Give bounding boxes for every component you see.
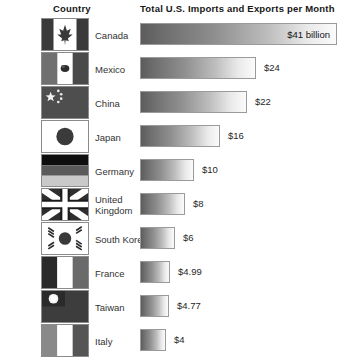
value-label: $22 [255,96,271,108]
chart-row: UnitedKingdom$8 [0,188,348,222]
flag-taiwan-icon [41,290,89,323]
column-header-country: Country [53,3,91,14]
value-label: $4.99 [178,266,202,278]
value-bar [140,329,166,351]
chart-row: France$4.99 [0,256,348,290]
value-bar [140,193,185,215]
value-label: $4.77 [177,300,201,312]
value-label: $16 [228,130,244,142]
country-label: Japan [95,132,121,143]
chart-row: Italy$4 [0,324,348,358]
chart-row: Japan$16 [0,120,348,154]
country-label: Mexico [95,64,125,75]
chart-row: South Korea$6 [0,222,348,256]
flag-france-icon [41,256,89,289]
value-bar [140,159,194,181]
column-header-value: Total U.S. Imports and Exports per Month [140,3,335,14]
flag-united-kingdom-icon [41,188,89,221]
flag-mexico-icon [41,52,89,85]
country-label: France [95,268,125,279]
flag-south-korea-icon [41,222,89,255]
chart-row: Taiwan$4.77 [0,290,348,324]
value-label: $41 billion [287,29,330,41]
value-bar [140,125,220,147]
country-label: Italy [95,336,112,347]
value-label: $6 [183,232,194,244]
flag-germany-icon [41,154,89,187]
value-label: $24 [264,62,280,74]
chart-row: Canada$41 billion [0,18,348,52]
value-bar: $41 billion [140,23,337,45]
value-label: $8 [193,198,204,210]
value-label: $4 [174,334,185,346]
chart-row: Germany$10 [0,154,348,188]
value-bar [140,91,247,113]
chart-row: Mexico$24 [0,52,348,86]
flag-italy-icon [41,324,89,357]
country-label: Canada [95,30,128,41]
value-bar [140,227,175,249]
country-label: China [95,98,120,109]
flag-china-icon [41,86,89,119]
country-label: Taiwan [95,302,125,313]
flag-canada-icon [41,18,89,51]
country-label: UnitedKingdom [95,194,133,216]
value-bar [140,57,256,79]
chart-row: China$22 [0,86,348,120]
flag-japan-icon [41,120,89,153]
value-bar [140,261,170,283]
value-label: $10 [202,164,218,176]
country-label: Germany [95,166,134,177]
value-bar [140,295,169,317]
